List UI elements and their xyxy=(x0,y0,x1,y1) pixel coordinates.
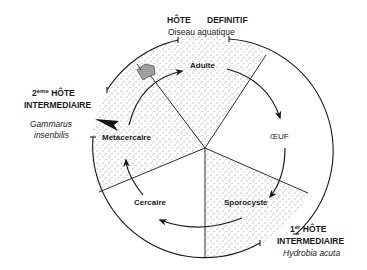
second-host-species-line1: Gammarus xyxy=(30,120,72,129)
stage-metacercaire: Metacercaire xyxy=(102,134,151,142)
first-host-title-line2: INTERMEDIAIRE xyxy=(277,237,344,246)
stage-adulte: Adulte xyxy=(190,62,215,70)
second-host-species-line2: insenbilis xyxy=(34,131,69,140)
second-host-ordinal-sup: eme xyxy=(37,88,49,94)
second-host-title: 2eme HÔTE xyxy=(32,89,75,98)
definitive-host-title-left: HÔTE xyxy=(167,16,191,25)
first-host-title: 1er HÔTE xyxy=(290,225,326,234)
first-host-title-line1: HÔTE xyxy=(303,224,327,234)
stage-sporocyste: Sporocyste xyxy=(224,199,268,207)
stage-cercaire: Cercaire xyxy=(134,199,166,207)
first-host-ordinal-sup: er xyxy=(295,224,301,230)
second-host-title-line2: INTERMEDIAIRE xyxy=(24,101,91,110)
definitive-host-title-right: DEFINITIF xyxy=(207,16,248,25)
stage-oeuf: ŒUF xyxy=(270,133,289,141)
first-host-species: Hydrobia acuta xyxy=(283,249,340,258)
second-host-title-line1: HÔTE xyxy=(51,88,75,98)
definitive-host-species: Oiseau aquatique xyxy=(168,28,235,37)
